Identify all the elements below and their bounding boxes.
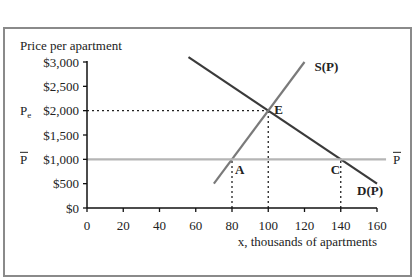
point-label-c: C (331, 162, 340, 177)
supply-curve (214, 62, 305, 184)
y-tick-label: $2,500 (43, 79, 79, 94)
point-label-e: E (274, 102, 283, 117)
y-tick-label: $0 (66, 201, 79, 216)
equilibrium-price-label: Pe (20, 103, 31, 120)
supply-curve-label: S(P) (315, 59, 339, 74)
x-tick-label: 120 (295, 218, 315, 233)
price-ceiling-label-right: P (393, 152, 400, 167)
y-axis-label: Price per apartment (20, 38, 122, 53)
x-tick-label: 160 (367, 218, 387, 233)
x-tick-label: 60 (189, 218, 202, 233)
y-tick-label: $2,000 (43, 103, 79, 118)
demand-curve-label: D(P) (357, 183, 383, 198)
x-tick-label: 0 (84, 218, 91, 233)
x-axis-label: x, thousands of apartments (238, 234, 377, 249)
y-tick-label: $1,500 (43, 128, 79, 143)
y-tick-label: $3,000 (43, 55, 79, 70)
x-tick-label: 80 (226, 218, 239, 233)
y-tick-label: $1,000 (43, 152, 79, 167)
demand-curve (189, 57, 378, 184)
x-tick-label: 20 (117, 218, 130, 233)
y-tick-label: $500 (53, 176, 79, 191)
price-ceiling-label-left: P (20, 152, 27, 167)
x-tick-label: 40 (153, 218, 166, 233)
point-label-a: A (235, 162, 245, 177)
x-tick-label: 140 (331, 218, 351, 233)
x-tick-label: 100 (259, 218, 279, 233)
